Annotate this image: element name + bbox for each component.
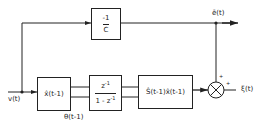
gain-numerator: -1 xyxy=(103,15,110,22)
sum-sign-right: + xyxy=(226,81,230,86)
integrator-denominator: 1 - z-1 xyxy=(95,96,115,105)
gain-denominator: C xyxy=(104,27,109,34)
integrator-numerator: z-1 xyxy=(101,81,110,90)
spectral-block: Ŝ(t-1)x̂(t-1) xyxy=(138,75,193,109)
state-estimate-block: x̂(t-1) xyxy=(37,77,71,111)
output-signal-label: ξ(t) xyxy=(241,86,253,93)
gain-block: -1 C xyxy=(91,8,121,40)
parameter-signal-label: θ(t-1) xyxy=(64,114,83,121)
block-diagram: -1 C x̂(t-1) z-1 1 - z-1 Ŝ(t-1)x̂(t-1) +… xyxy=(0,0,266,129)
spectral-label: Ŝ(t-1)x̂(t-1) xyxy=(146,88,185,96)
state-estimate-label: x̂(t-1) xyxy=(44,90,63,98)
integrator-block: z-1 1 - z-1 xyxy=(89,75,122,111)
sum-sign-top: + xyxy=(219,74,223,79)
error-signal-label: ē(t) xyxy=(212,10,225,17)
input-signal-label: v(t) xyxy=(8,96,20,103)
